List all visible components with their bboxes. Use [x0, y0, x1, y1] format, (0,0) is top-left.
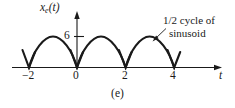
xtick-label-2: 2	[122, 70, 128, 82]
y-axis-label: xe(t)	[40, 2, 60, 15]
curve-annotation-line1: 1/2 cycle of	[163, 14, 215, 26]
xtick-label-minus2: −2	[22, 70, 34, 82]
sinusoid-hump-3	[126, 37, 175, 68]
signal-curve	[29, 37, 174, 68]
x-axis	[12, 65, 222, 70]
arrowhead-at-minus2	[23, 50, 36, 68]
figure-caption: (e)	[0, 88, 235, 100]
sinusoid-hump-1	[29, 37, 77, 68]
xtick-label-4: 4	[170, 70, 176, 82]
ytick-label-6: 6	[64, 30, 70, 42]
x-axis-label: t	[219, 70, 222, 82]
sinusoid-hump-2	[77, 37, 126, 68]
arrowhead-at-2	[119, 50, 132, 68]
curve-annotation: 1/2 cycle ofsinusoid	[163, 14, 215, 40]
xtick-label-0: 0	[73, 70, 79, 82]
y-axis-arrowhead	[74, 11, 79, 19]
curve-annotation-line2: sinusoid	[163, 27, 215, 40]
y-axis-label-argument: (t)	[49, 1, 60, 13]
arrowhead-at-4	[168, 50, 181, 68]
zero-crossing-arrowheads	[23, 50, 181, 68]
figure-container: xe(t) 6 −2 0 2 4 t 1/2 cycle ofsinusoid …	[0, 0, 235, 108]
